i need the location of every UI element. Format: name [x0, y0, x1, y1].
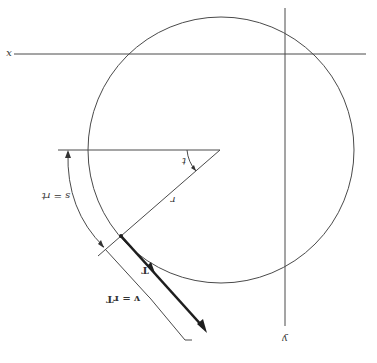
- arc-length-arrow-top: [65, 150, 71, 158]
- tangent-unit-label: T: [141, 265, 149, 276]
- theta-label: t: [181, 156, 186, 167]
- arc-length-label: s = rt: [41, 191, 71, 202]
- x-axis-label: x: [6, 49, 12, 60]
- radius-label: r: [169, 195, 175, 206]
- radius-line: [121, 150, 220, 236]
- point-on-circle: [119, 234, 123, 238]
- y-axis-label: y: [282, 334, 289, 345]
- velocity-vector: [121, 236, 204, 328]
- arc-length-curve: [68, 152, 104, 247]
- velocity-label: v = rT: [106, 294, 141, 305]
- circular-motion-diagram: x y t r s = rt T v = rT: [0, 0, 377, 363]
